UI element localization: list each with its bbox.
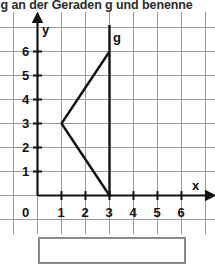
- origin-label: 0: [22, 205, 29, 220]
- y-tick-label-4: 4: [22, 92, 30, 107]
- y-tick-label-6: 6: [22, 44, 29, 59]
- x-axis-label: x: [192, 178, 200, 193]
- x-tick-label-3: 3: [106, 205, 113, 220]
- y-tick-label-2: 2: [22, 140, 29, 155]
- answer-box[interactable]: [38, 237, 186, 264]
- y-tick-labels: 1 2 3 4 5 6: [22, 44, 30, 179]
- coordinate-plot-svg: g y x 1 2 3 4 5 6 1 2 3 4 5 6: [0, 12, 215, 234]
- y-tick-label-1: 1: [22, 164, 29, 179]
- y-tick-label-3: 3: [22, 116, 29, 131]
- answer-input[interactable]: [40, 239, 184, 262]
- grid-lines: [0, 12, 215, 234]
- x-tick-label-6: 6: [178, 205, 185, 220]
- y-axis-label: y: [42, 22, 50, 37]
- worksheet-page: ug an der Geraden g und benenne: [0, 0, 215, 270]
- x-tick-label-2: 2: [82, 205, 89, 220]
- x-axis-arrow: [206, 192, 214, 200]
- x-tick-label-5: 5: [154, 205, 161, 220]
- x-tick-labels: 1 2 3 4 5 6: [58, 205, 185, 220]
- y-tick-label-5: 5: [22, 68, 29, 83]
- x-tick-label-1: 1: [58, 205, 65, 220]
- y-axis-arrow: [34, 14, 42, 22]
- tick-marks: [33, 52, 182, 201]
- x-tick-label-4: 4: [130, 205, 138, 220]
- coordinate-plot[interactable]: g y x 1 2 3 4 5 6 1 2 3 4 5 6: [0, 12, 215, 234]
- line-g-label: g: [113, 30, 121, 45]
